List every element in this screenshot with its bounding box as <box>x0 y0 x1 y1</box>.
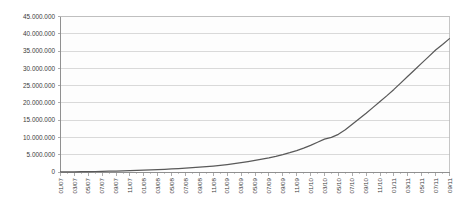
y-tick-label: 30.000.000 <box>23 65 55 72</box>
x-tick-label: 07/10 <box>348 177 355 193</box>
y-tick-label: 10.000.000 <box>23 134 55 141</box>
y-tick-label: 15.000.000 <box>23 116 55 123</box>
x-tick-label: 11/10 <box>376 177 383 193</box>
x-tick-label: 03/07 <box>71 177 78 193</box>
y-tick-label: 25.000.000 <box>23 82 55 89</box>
x-tick-label: 11/07 <box>126 177 133 193</box>
y-tick-label: 40.000.000 <box>23 30 55 37</box>
x-tick-label: 09/08 <box>196 177 203 193</box>
x-tick-marks <box>61 172 450 176</box>
x-tick-label: 07/07 <box>98 177 105 193</box>
y-tick-label: 45.000.000 <box>23 13 55 20</box>
x-tick-label: 05/11 <box>418 177 425 193</box>
x-tick-label: 07/09 <box>265 177 272 193</box>
x-tick-label: 03/08 <box>154 177 161 193</box>
line-chart: 45.000.00040.000.00035.000.00030.000.000… <box>0 0 461 212</box>
chart-container: 45.000.00040.000.00035.000.00030.000.000… <box>0 0 461 212</box>
x-tick-label: 09/07 <box>112 177 119 193</box>
y-tick-label: 0 <box>51 168 55 175</box>
y-tick-label: 5.000.000 <box>27 151 56 158</box>
x-tick-label: 05/10 <box>335 177 342 193</box>
x-axis-tick-labels: 01/0703/0705/0707/0709/0711/0701/0803/08… <box>57 177 453 193</box>
x-tick-label: 07/11 <box>432 177 439 193</box>
x-tick-label: 09/09 <box>279 177 286 193</box>
y-axis-tick-labels: 45.000.00040.000.00035.000.00030.000.000… <box>23 13 55 176</box>
x-tick-label: 01/11 <box>390 177 397 193</box>
x-tick-label: 05/07 <box>84 177 91 193</box>
x-tick-label: 07/08 <box>182 177 189 193</box>
y-tick-label: 20.000.000 <box>23 99 55 106</box>
x-tick-label: 09/11 <box>446 177 453 193</box>
x-tick-label: 03/10 <box>321 177 328 193</box>
x-tick-label: 01/09 <box>223 177 230 193</box>
x-tick-label: 03/11 <box>404 177 411 193</box>
x-tick-label: 01/07 <box>57 177 64 193</box>
x-tick-label: 05/09 <box>251 177 258 193</box>
y-tick-label: 35.000.000 <box>23 47 55 54</box>
x-tick-label: 09/10 <box>362 177 369 193</box>
x-tick-label: 11/09 <box>293 177 300 193</box>
x-tick-label: 03/09 <box>237 177 244 193</box>
x-tick-label: 05/08 <box>168 177 175 193</box>
x-tick-label: 01/08 <box>140 177 147 193</box>
x-tick-label: 11/08 <box>210 177 217 193</box>
x-tick-label: 01/10 <box>307 177 314 193</box>
plot-background <box>61 17 450 173</box>
